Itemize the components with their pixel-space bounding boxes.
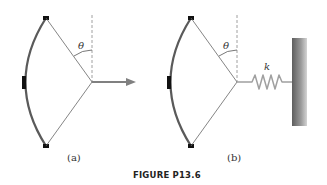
panel-a bbox=[22, 15, 136, 148]
bow-grip-b bbox=[167, 76, 171, 89]
figure-canvas bbox=[0, 0, 327, 185]
string-lower-a bbox=[46, 82, 92, 146]
theta-label-a: θ bbox=[78, 40, 84, 51]
figure-caption: FIGURE P13.6 bbox=[133, 170, 201, 180]
string-upper-a bbox=[46, 18, 92, 82]
string-upper-b bbox=[191, 18, 237, 82]
spring-icon bbox=[237, 75, 292, 89]
force-arrow-head-icon bbox=[126, 78, 136, 86]
panel-b bbox=[167, 15, 307, 148]
panel-label-b: (b) bbox=[227, 152, 241, 163]
bow-a bbox=[26, 18, 47, 146]
string-lower-b bbox=[191, 82, 237, 146]
spring-constant-label: k bbox=[264, 61, 270, 72]
theta-label-b: θ bbox=[223, 40, 229, 51]
bow-grip-a bbox=[22, 76, 26, 89]
bow-b bbox=[171, 18, 192, 146]
wall bbox=[292, 38, 307, 126]
panel-label-a: (a) bbox=[67, 152, 81, 163]
